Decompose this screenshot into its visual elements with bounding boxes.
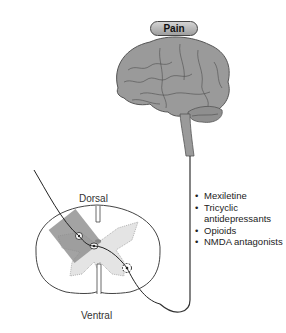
spinal-cord-cross-section <box>34 170 160 304</box>
dorsal-label: Dorsal <box>79 193 108 204</box>
drug-list: Mexiletine Tricyclic antidepressants Opi… <box>195 190 286 248</box>
pain-pathway-diagram <box>0 0 286 333</box>
ventral-label: Ventral <box>81 310 112 321</box>
drug-item: Tricyclic antidepressants <box>195 202 286 225</box>
drug-item: Opioids <box>195 225 286 237</box>
drug-item: Mexiletine <box>195 190 286 202</box>
drug-item: NMDA antagonists <box>195 236 286 248</box>
